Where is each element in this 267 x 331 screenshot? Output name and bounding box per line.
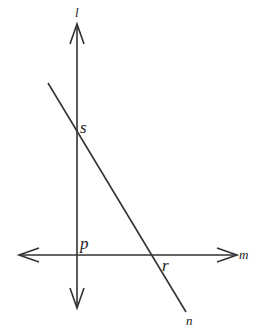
label-p: p bbox=[79, 234, 89, 253]
label-n: n bbox=[186, 313, 193, 328]
label-l: l bbox=[75, 5, 79, 20]
label-s: s bbox=[80, 118, 87, 137]
line-n bbox=[48, 83, 186, 312]
label-r: r bbox=[162, 256, 169, 275]
label-m: m bbox=[239, 247, 248, 262]
geometry-diagram: l m n s p r bbox=[0, 0, 267, 331]
line-l bbox=[70, 24, 84, 308]
line-m bbox=[19, 248, 237, 262]
